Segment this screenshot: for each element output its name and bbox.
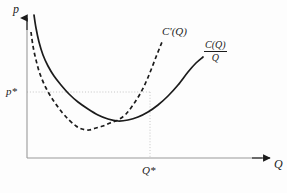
average-cost-curve-label: C(Q) Q — [204, 40, 227, 63]
y-axis-label: p — [13, 3, 19, 15]
price-star-label: p* — [6, 86, 17, 97]
quantity-star-label: Q* — [142, 165, 155, 176]
x-axis-label: Q — [274, 158, 283, 170]
marginal-cost-curve-label: C'(Q) — [162, 26, 187, 37]
cost-curves-figure: p Q p* Q* C'(Q) C(Q) Q — [0, 0, 287, 193]
guide-lines — [27, 92, 151, 158]
average-cost-denominator: Q — [204, 52, 227, 63]
average-cost-numerator: C(Q) — [204, 40, 227, 52]
